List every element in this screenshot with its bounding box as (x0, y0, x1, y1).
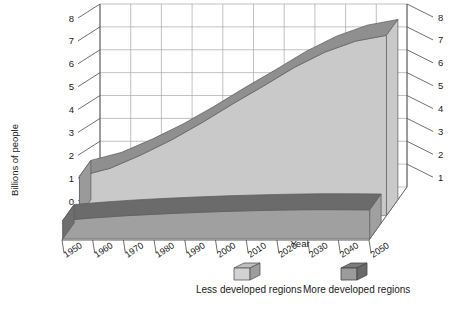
right-tick-label: 6 (438, 57, 443, 68)
ribbon-less-developed-regions-right-cap (386, 19, 397, 215)
year-tick-label: 1960 (92, 240, 114, 259)
legend-label-more-developed: More developed regions (303, 284, 410, 295)
right-tick-label: 8 (438, 12, 443, 23)
left-tick-label: 2 (69, 150, 74, 161)
legend-label-less-developed: Less developed regions (196, 284, 302, 295)
legend: Less developed regions More developed re… (196, 263, 410, 295)
right-tick-label: 1 (438, 172, 443, 183)
left-tick (78, 27, 100, 41)
x-axis-title: Year (290, 238, 309, 249)
right-tick (407, 164, 433, 177)
legend-item-less-developed[interactable]: Less developed regions (196, 263, 302, 295)
year-tick-label: 2050 (369, 240, 391, 259)
right-tick (407, 96, 433, 109)
year-tick-label: 2040 (338, 240, 360, 259)
light-box-icon (234, 263, 260, 280)
year-tick-labels: 1950196019701980199020002010202020302040… (62, 240, 391, 260)
right-tick-label: 5 (438, 80, 443, 91)
left-tick-label: 8 (69, 13, 74, 24)
ribbon-less-developed-regions (79, 19, 397, 215)
right-tick (407, 50, 433, 63)
left-tick (78, 4, 100, 18)
left-tick-label: 3 (69, 127, 74, 138)
left-tick-label: 6 (69, 58, 74, 69)
year-tick-label: 1950 (62, 240, 84, 259)
left-tick-label: 5 (69, 81, 74, 92)
year-tick-label: 2010 (246, 240, 268, 259)
right-tick (407, 73, 433, 86)
right-tick-label: 7 (438, 34, 443, 45)
series-ribbons (63, 19, 398, 238)
left-tick (78, 73, 100, 87)
legend-item-more-developed[interactable]: More developed regions (303, 263, 410, 295)
year-tick-label: 1990 (184, 240, 206, 259)
right-value-axis: 87654321 (407, 4, 443, 187)
right-tick (407, 141, 433, 154)
ribbon-less-developed-regions-front-face (79, 35, 386, 215)
right-tick-label: 3 (438, 126, 443, 137)
right-tick-label: 4 (438, 103, 443, 114)
left-tick (78, 50, 100, 64)
dark-box-icon (341, 263, 367, 280)
left-tick-label: 7 (69, 35, 74, 46)
chart-container: 876543210 87654321 195019601970198019902… (0, 0, 449, 309)
left-tick (78, 141, 100, 155)
right-tick (407, 118, 433, 131)
left-tick-label: 4 (69, 104, 74, 115)
right-tick (407, 4, 433, 17)
left-tick-label: 1 (69, 173, 74, 184)
year-tick-label: 2030 (307, 240, 329, 259)
year-tick-label: 1980 (154, 240, 176, 259)
left-tick (78, 118, 100, 132)
population-3d-area-chart: 876543210 87654321 195019601970198019902… (0, 0, 449, 309)
left-tick (78, 96, 100, 110)
right-tick (407, 27, 433, 40)
right-tick-label: 2 (438, 149, 443, 160)
year-tick-label: 2000 (215, 240, 237, 259)
y-axis-title: Billions of people (9, 124, 20, 196)
left-tick-label: 0 (69, 196, 74, 207)
year-tick-label: 1970 (123, 240, 145, 259)
